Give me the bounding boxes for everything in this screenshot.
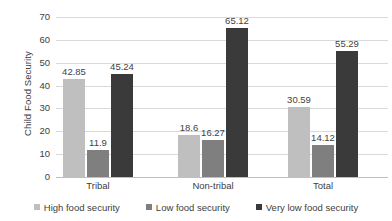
legend-swatch-icon — [146, 204, 152, 210]
bar[interactable] — [336, 51, 358, 177]
legend-swatch-icon — [256, 204, 262, 210]
y-axis-tick-label: 60 — [26, 35, 50, 45]
legend-label: Very low food security — [266, 202, 358, 213]
bar-value-label: 42.85 — [51, 66, 97, 77]
bar-group: 42.8511.945.24 — [63, 17, 133, 177]
x-axis-category-label: Tribal — [58, 180, 138, 191]
y-axis-tick-labels: 706050403020100 — [22, 17, 50, 177]
legend-item[interactable]: Low food security — [146, 202, 230, 213]
bar[interactable] — [87, 150, 109, 177]
y-axis-tick-label: 20 — [26, 126, 50, 136]
x-axis-category-labels: TribalNon-tribalTotal — [56, 180, 388, 194]
y-axis-tick-label: 40 — [26, 81, 50, 91]
bar[interactable] — [202, 140, 224, 177]
chart-legend: High food securityLow food securityVery … — [0, 199, 392, 215]
legend-label: Low food security — [156, 202, 230, 213]
bar-chart: Child Food Security 706050403020100 42.8… — [0, 0, 392, 221]
bar-group: 30.5914.1255.29 — [288, 17, 358, 177]
y-axis-tick-label: 70 — [26, 12, 50, 22]
bar[interactable] — [312, 145, 334, 177]
y-axis-tick-label: 0 — [26, 172, 50, 182]
legend-swatch-icon — [34, 204, 40, 210]
x-axis-category-label: Total — [283, 180, 363, 191]
bar[interactable] — [226, 28, 248, 177]
bar-value-label: 30.59 — [276, 94, 322, 105]
bar[interactable] — [178, 135, 200, 178]
bar-value-label: 65.12 — [214, 15, 260, 26]
bar-value-label: 45.24 — [99, 61, 145, 72]
bar[interactable] — [63, 79, 85, 177]
bar-group: 18.616.2765.12 — [178, 17, 248, 177]
y-axis-tick-label: 10 — [26, 149, 50, 159]
legend-item[interactable]: High food security — [34, 202, 120, 213]
y-axis-tick-label: 30 — [26, 103, 50, 113]
y-axis-tick-label: 50 — [26, 58, 50, 68]
bar-value-label: 55.29 — [324, 38, 370, 49]
x-axis-category-label: Non-tribal — [173, 180, 253, 191]
legend-label: High food security — [44, 202, 120, 213]
legend-item[interactable]: Very low food security — [256, 202, 358, 213]
x-axis-line — [56, 177, 388, 178]
plot-area: 42.8511.945.2418.616.2765.1230.5914.1255… — [56, 17, 388, 177]
bar[interactable] — [111, 74, 133, 177]
